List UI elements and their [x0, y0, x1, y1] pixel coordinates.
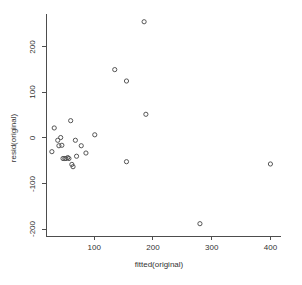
data-point	[50, 150, 54, 154]
data-point	[52, 126, 56, 130]
data-point	[67, 156, 71, 160]
x-axis-tick-label: 200	[146, 244, 159, 252]
y-axis-tick-label: -200	[29, 221, 37, 237]
x-axis-title: fitted(original)	[135, 261, 183, 269]
data-point	[124, 160, 128, 164]
data-point	[69, 119, 73, 123]
data-point	[79, 144, 83, 148]
x-axis-ticks	[94, 236, 270, 240]
data-point	[124, 79, 128, 83]
data-point	[73, 138, 77, 142]
data-point	[142, 20, 146, 24]
data-point	[74, 154, 78, 158]
y-axis-ticks	[42, 47, 46, 229]
data-point	[84, 151, 88, 155]
plot-area: 100200300400 -200-1000100200 fitted(orig…	[0, 0, 302, 285]
y-axis-tick-label: -100	[29, 176, 37, 192]
x-axis-tick-label: 300	[205, 244, 218, 252]
y-axis-tick-label: 200	[29, 40, 37, 53]
scatter-plot-figure: 100200300400 -200-1000100200 fitted(orig…	[0, 0, 302, 285]
data-point	[59, 135, 63, 139]
y-axis-tick-label: 0	[29, 136, 37, 140]
data-point	[268, 162, 272, 166]
data-point	[60, 143, 64, 147]
data-point	[198, 222, 202, 226]
y-axis-tick-label: 100	[29, 86, 37, 99]
data-point	[113, 68, 117, 72]
data-point	[144, 112, 148, 116]
x-axis-tick-label: 100	[87, 244, 100, 252]
x-axis-tick-label: 400	[264, 244, 277, 252]
data-point	[93, 133, 97, 137]
y-axis-title: resid(original)	[10, 114, 18, 162]
data-points	[50, 20, 273, 226]
